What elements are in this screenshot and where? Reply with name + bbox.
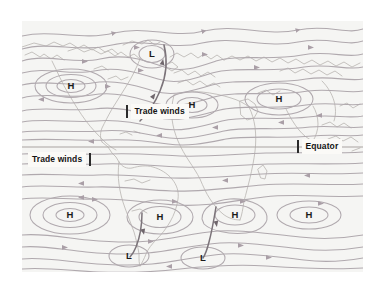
figure-container: H L H H H H L H L H Trade winds Trade wi… — [0, 0, 387, 295]
annotation-tick-mark — [89, 153, 91, 166]
pressure-center-l-icelandic: L — [149, 48, 155, 59]
pressure-center-h-indian-ocean: H — [232, 209, 239, 220]
pressure-center-h-south-atlantic: H — [157, 211, 164, 222]
annotation-tick-mark — [126, 105, 128, 118]
pressure-center-l-southern-atlantic: L — [126, 250, 132, 261]
pressure-center-l-southern-indian: L — [200, 252, 206, 263]
pressure-center-h-asian: H — [276, 93, 283, 104]
pressure-center-h-azores: H — [189, 99, 196, 110]
annotation-label: Trade winds — [28, 152, 86, 167]
pressure-center-h-south-pacific-west: H — [306, 209, 313, 220]
pressure-center-h-south-pacific-east: H — [67, 209, 74, 220]
pressure-center-h-north-pacific: H — [68, 80, 75, 91]
annotation-label: Trade winds — [131, 104, 189, 119]
annotation-equator[interactable]: Equator — [297, 139, 342, 154]
annotation-trade-winds-north[interactable]: Trade winds — [126, 104, 189, 119]
annotation-tick-mark — [297, 140, 299, 153]
annotation-trade-winds-south[interactable]: Trade winds — [28, 152, 91, 167]
annotation-label: Equator — [302, 139, 343, 154]
